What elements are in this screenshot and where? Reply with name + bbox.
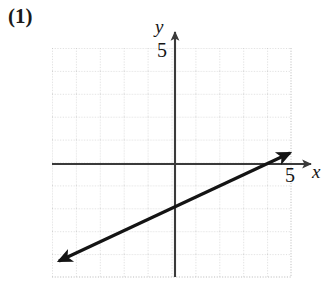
x-axis-tick-label-5: 5	[285, 164, 295, 186]
x-axis-name-label: x	[311, 161, 321, 182]
figure-container: (1) 5	[0, 0, 333, 290]
y-axis-name-label: y	[153, 16, 164, 37]
y-axis-tick-label-5: 5	[157, 39, 167, 61]
coordinate-plane-plot: 5 y 5 x	[0, 0, 333, 290]
grid-lines	[52, 48, 291, 277]
